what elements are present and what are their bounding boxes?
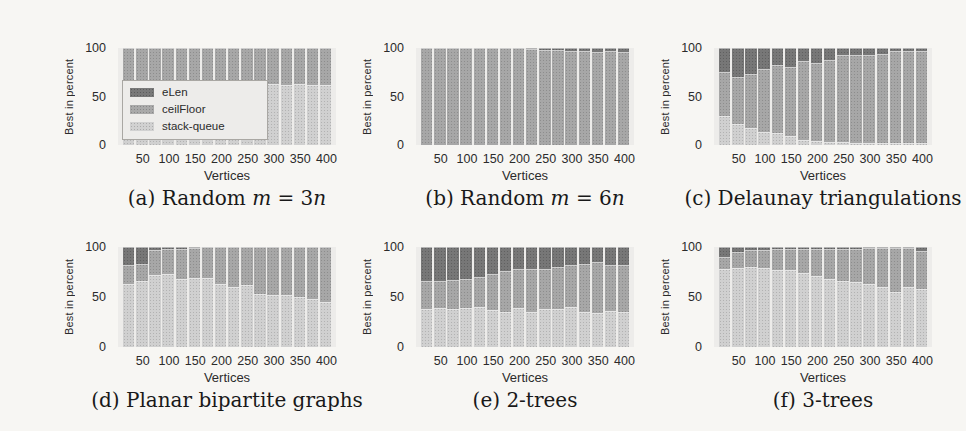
segment-ceilFloor [254,247,265,294]
y-tick-0: 0 [397,340,404,354]
x-tick-100: 100 [755,152,776,166]
bar-vertices-350 [294,247,305,347]
bar-vertices-25 [123,247,134,347]
bar-vertices-275 [850,247,861,347]
segment-eLen [863,48,874,55]
segment-eLen [732,48,743,77]
segment-ceilFloor [202,247,213,278]
legend-entry-stack-queue: stack-queue [130,120,260,133]
segment-stack-queue [798,273,809,347]
segment-stack-queue [890,292,901,347]
segment-ceilFloor [539,50,550,145]
segment-ceilFloor [526,49,537,145]
segment-eLen [811,48,822,63]
segment-ceilFloor [579,264,590,312]
x-tick-300: 300 [860,354,881,368]
segment-eLen [592,247,603,262]
y-tick-0: 0 [695,340,702,354]
bar-vertices-150 [785,247,796,347]
bar-vertices-375 [605,247,616,347]
segment-eLen [136,247,147,264]
segment-stack-queue [267,84,278,145]
x-axis-ticks: 50100150200250300350400 [714,354,932,367]
segment-ceilFloor [526,269,537,312]
segment-ceilFloor [579,51,590,145]
segment-stack-queue [758,132,769,145]
legend-label-stack-queue: stack-queue [162,120,225,133]
segment-ceilFloor [732,252,743,268]
segment-ceilFloor [189,48,200,84]
segment-ceilFloor [837,249,848,281]
segment-eLen [123,247,134,265]
chart-caption: (a) Random m = 3n [56,186,398,210]
x-tick-350: 350 [290,152,311,166]
x-tick-50: 50 [136,354,150,368]
segment-ceilFloor [539,269,550,309]
bar-vertices-300 [267,247,278,347]
segment-stack-queue [474,307,485,347]
bar-vertices-300 [863,247,874,347]
segment-ceilFloor [758,69,769,132]
bar-vertices-300 [565,247,576,347]
chart-caption: (b) Random m = 6n [354,186,696,210]
legend-entry-elen: eLen [130,86,260,99]
segment-ceilFloor [719,72,730,116]
segment-ceilFloor [877,54,888,143]
legend: eLen ceilFloor stack-queue [122,80,268,140]
x-tick-350: 350 [588,152,609,166]
x-tick-150: 150 [185,152,206,166]
segment-stack-queue [552,309,563,347]
x-tick-400: 400 [912,354,933,368]
x-tick-50: 50 [732,152,746,166]
x-axis-ticks: 50100150200250300350400 [416,152,634,165]
y-tick-0: 0 [99,138,106,152]
segment-eLen [850,48,861,55]
x-axis-label: Vertices [714,168,932,183]
segment-ceilFloor [798,61,809,141]
bar-vertices-25 [719,247,730,347]
bar-vertices-400 [320,247,331,347]
segment-stack-queue [877,287,888,347]
segment-ceilFloor [294,48,305,84]
segment-stack-queue [758,268,769,347]
segment-stack-queue [618,312,629,347]
segment-stack-queue [228,287,239,347]
y-axis-ticks: 100500 [672,247,706,347]
segment-ceilFloor [474,48,485,145]
y-axis-label: Best in percent [360,48,374,145]
x-axis-label: Vertices [416,370,634,385]
segment-ceilFloor [434,281,445,308]
segment-stack-queue [903,287,914,347]
segment-stack-queue [267,295,278,347]
y-tick-50: 50 [92,90,106,104]
y-axis-label: Best in percent [62,48,76,145]
segment-stack-queue [850,282,861,347]
bar-vertices-175 [798,247,809,347]
x-tick-350: 350 [886,152,907,166]
x-axis-label: Vertices [416,168,634,183]
segment-stack-queue [811,276,822,347]
segment-stack-queue [719,269,730,347]
bar-vertices-100 [460,247,471,347]
segment-ceilFloor [281,48,292,85]
segment-ceilFloor [772,65,783,133]
segment-ceilFloor [903,51,914,143]
legend-label-ceilfloor: ceilFloor [162,103,205,116]
y-tick-50: 50 [390,90,404,104]
segment-ceilFloor [202,48,213,84]
x-tick-400: 400 [316,152,337,166]
segment-eLen [579,247,590,264]
bar-vertices-150 [487,48,498,145]
segment-stack-queue [307,299,318,347]
segment-ceilFloor [811,249,822,276]
segment-stack-queue [294,297,305,347]
bar-vertices-25 [719,48,730,145]
segment-ceilFloor [136,48,147,83]
bar-vertices-50 [136,247,147,347]
bar-vertices-200 [811,247,822,347]
segment-stack-queue [539,309,550,347]
segment-eLen [837,48,848,55]
segment-stack-queue [785,270,796,347]
segment-ceilFloor [281,247,292,295]
